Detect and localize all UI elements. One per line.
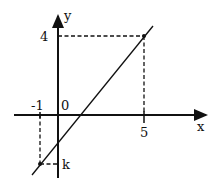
coordinate-diagram: y x 0 4 -1 5 k <box>0 0 216 185</box>
tick-label-k: k <box>62 157 70 172</box>
tick-label-x5: 5 <box>140 125 148 140</box>
tick-label-xneg1: -1 <box>31 98 44 113</box>
origin-label: 0 <box>61 98 69 113</box>
tick-label-y4: 4 <box>40 29 48 44</box>
x-axis-label: x <box>197 119 205 134</box>
point-neg1-k <box>38 162 42 166</box>
y-axis-label: y <box>63 8 72 23</box>
graph-line <box>32 26 153 175</box>
point-5-4 <box>142 34 146 38</box>
